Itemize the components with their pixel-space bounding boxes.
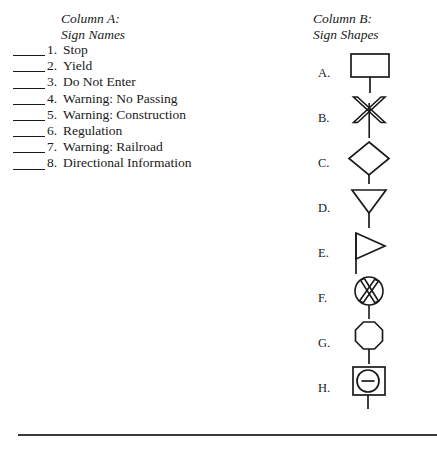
item-number: 1. bbox=[47, 42, 57, 58]
list-item: 4. Warning: No Passing bbox=[0, 92, 290, 108]
list-item: G. bbox=[305, 320, 437, 365]
diamond-sign-on-post-icon bbox=[341, 140, 401, 185]
list-item: F. bbox=[305, 275, 437, 320]
list-item: D. bbox=[305, 185, 437, 230]
column-a-header-line1: Column A: bbox=[61, 11, 125, 27]
column-a-header: Column A: Sign Names bbox=[61, 11, 125, 43]
column-b-list: A. B. C. bbox=[305, 50, 437, 410]
shape-letter: A. bbox=[318, 66, 330, 81]
answer-blank-6[interactable] bbox=[13, 136, 45, 137]
shape-letter: C. bbox=[318, 156, 329, 171]
list-item: 2. Yield bbox=[0, 59, 290, 75]
column-b-header-line2: Sign Shapes bbox=[313, 27, 379, 43]
circle-with-crossbuck-sign-on-post-icon bbox=[341, 275, 401, 320]
item-label: Yield bbox=[63, 58, 92, 74]
inverted-triangle-sign-on-post-icon bbox=[341, 185, 401, 230]
item-label: Do Not Enter bbox=[63, 74, 136, 90]
item-number: 2. bbox=[47, 58, 57, 74]
item-label: Stop bbox=[63, 42, 88, 58]
answer-blank-1[interactable] bbox=[13, 55, 45, 56]
octagon-sign-on-post-icon bbox=[341, 320, 401, 365]
shape-letter: B. bbox=[318, 111, 329, 126]
rectangle-sign-on-post-icon bbox=[341, 50, 401, 95]
shape-letter: H. bbox=[318, 381, 330, 396]
shape-letter: E. bbox=[318, 246, 329, 261]
item-number: 3. bbox=[47, 74, 57, 90]
item-label: Warning: No Passing bbox=[63, 91, 177, 107]
shape-letter: D. bbox=[318, 201, 330, 216]
list-item: 6. Regulation bbox=[0, 124, 290, 140]
pennant-sign-on-post-icon bbox=[341, 230, 401, 275]
crossbuck-sign-on-post-icon bbox=[341, 95, 401, 140]
item-label: Directional Information bbox=[63, 155, 192, 171]
item-number: 5. bbox=[47, 107, 57, 123]
list-item: 8. Directional Information bbox=[0, 156, 290, 172]
list-item: 1. Stop bbox=[0, 43, 290, 59]
item-label: Regulation bbox=[63, 123, 122, 139]
answer-blank-7[interactable] bbox=[13, 152, 45, 153]
list-item: E. bbox=[305, 230, 437, 275]
bottom-divider bbox=[18, 434, 437, 436]
item-number: 7. bbox=[47, 139, 57, 155]
answer-blank-4[interactable] bbox=[13, 104, 45, 105]
list-item: C. bbox=[305, 140, 437, 185]
item-number: 4. bbox=[47, 91, 57, 107]
item-label: Warning: Construction bbox=[63, 107, 186, 123]
worksheet-page: Column A: Sign Names Column B: Sign Shap… bbox=[0, 0, 437, 458]
list-item: 5. Warning: Construction bbox=[0, 108, 290, 124]
item-number: 8. bbox=[47, 155, 57, 171]
answer-blank-8[interactable] bbox=[13, 169, 45, 170]
list-item: H. bbox=[305, 365, 437, 410]
column-b-header-line1: Column B: bbox=[313, 11, 379, 27]
item-number: 6. bbox=[47, 123, 57, 139]
list-item: 3. Do Not Enter bbox=[0, 75, 290, 91]
shape-letter: G. bbox=[318, 336, 330, 351]
item-label: Warning: Railroad bbox=[63, 139, 163, 155]
answer-blank-5[interactable] bbox=[13, 120, 45, 121]
list-item: B. bbox=[305, 95, 437, 140]
column-b-header: Column B: Sign Shapes bbox=[313, 11, 379, 43]
list-item: A. bbox=[305, 50, 437, 95]
answer-blank-2[interactable] bbox=[13, 71, 45, 72]
list-item: 7. Warning: Railroad bbox=[0, 140, 290, 156]
answer-blank-3[interactable] bbox=[13, 88, 45, 89]
column-a-list: 1. Stop 2. Yield 3. Do Not Enter 4. Warn… bbox=[0, 43, 290, 173]
column-a-header-line2: Sign Names bbox=[61, 27, 125, 43]
square-with-circle-and-bar-sign-on-post-icon bbox=[341, 365, 401, 410]
shape-letter: F. bbox=[318, 291, 327, 306]
